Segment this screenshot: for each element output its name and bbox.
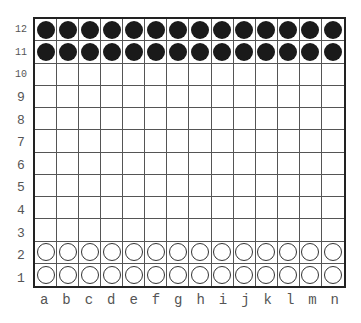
black-piece-icon[interactable]	[147, 21, 165, 39]
white-piece-icon[interactable]	[235, 266, 253, 284]
board-square-g12[interactable]	[167, 19, 189, 41]
white-piece-icon[interactable]	[169, 243, 187, 261]
board-square-g1[interactable]	[167, 264, 189, 286]
board-square-h7[interactable]	[189, 130, 211, 152]
board-square-a12[interactable]	[35, 19, 57, 41]
black-piece-icon[interactable]	[235, 21, 253, 39]
board-square-b6[interactable]	[57, 153, 79, 175]
board-square-a1[interactable]	[35, 264, 57, 286]
board-square-h4[interactable]	[189, 197, 211, 219]
board-square-a7[interactable]	[35, 130, 57, 152]
board-square-l10[interactable]	[278, 64, 300, 86]
board-square-b4[interactable]	[57, 197, 79, 219]
black-piece-icon[interactable]	[37, 21, 55, 39]
board-square-h8[interactable]	[189, 108, 211, 130]
white-piece-icon[interactable]	[103, 243, 121, 261]
board-square-b2[interactable]	[57, 242, 79, 264]
white-piece-icon[interactable]	[213, 243, 231, 261]
board-square-f4[interactable]	[145, 197, 167, 219]
board-square-e11[interactable]	[123, 41, 145, 63]
black-piece-icon[interactable]	[103, 43, 121, 61]
white-piece-icon[interactable]	[147, 266, 165, 284]
board-square-h2[interactable]	[189, 242, 211, 264]
board-square-c9[interactable]	[79, 86, 101, 108]
board-square-n11[interactable]	[322, 41, 344, 63]
board-square-j8[interactable]	[234, 108, 256, 130]
board-square-e7[interactable]	[123, 130, 145, 152]
black-piece-icon[interactable]	[37, 43, 55, 61]
white-piece-icon[interactable]	[125, 243, 143, 261]
black-piece-icon[interactable]	[59, 43, 77, 61]
board-square-c12[interactable]	[79, 19, 101, 41]
board-square-m1[interactable]	[300, 264, 322, 286]
white-piece-icon[interactable]	[81, 266, 99, 284]
board-square-c6[interactable]	[79, 153, 101, 175]
board-square-k3[interactable]	[256, 219, 278, 241]
board-square-h3[interactable]	[189, 219, 211, 241]
board-square-g11[interactable]	[167, 41, 189, 63]
white-piece-icon[interactable]	[191, 266, 209, 284]
board-square-c11[interactable]	[79, 41, 101, 63]
board-square-k5[interactable]	[256, 175, 278, 197]
board-square-g9[interactable]	[167, 86, 189, 108]
board-square-c4[interactable]	[79, 197, 101, 219]
board-square-j6[interactable]	[234, 153, 256, 175]
board-square-e10[interactable]	[123, 64, 145, 86]
black-piece-icon[interactable]	[191, 43, 209, 61]
board-square-l1[interactable]	[278, 264, 300, 286]
board-square-g6[interactable]	[167, 153, 189, 175]
board-square-j12[interactable]	[234, 19, 256, 41]
black-piece-icon[interactable]	[169, 21, 187, 39]
white-piece-icon[interactable]	[81, 243, 99, 261]
board-square-l6[interactable]	[278, 153, 300, 175]
black-piece-icon[interactable]	[279, 21, 297, 39]
board-square-n5[interactable]	[322, 175, 344, 197]
board-square-i8[interactable]	[212, 108, 234, 130]
board-square-a8[interactable]	[35, 108, 57, 130]
white-piece-icon[interactable]	[125, 266, 143, 284]
board-square-h11[interactable]	[189, 41, 211, 63]
white-piece-icon[interactable]	[324, 266, 342, 284]
board-square-b10[interactable]	[57, 64, 79, 86]
board-square-j2[interactable]	[234, 242, 256, 264]
board-square-d2[interactable]	[101, 242, 123, 264]
board-square-l4[interactable]	[278, 197, 300, 219]
black-piece-icon[interactable]	[324, 21, 342, 39]
board-square-k9[interactable]	[256, 86, 278, 108]
board-square-f12[interactable]	[145, 19, 167, 41]
board-square-l2[interactable]	[278, 242, 300, 264]
board-square-f7[interactable]	[145, 130, 167, 152]
black-piece-icon[interactable]	[191, 21, 209, 39]
board-square-f9[interactable]	[145, 86, 167, 108]
board-square-i5[interactable]	[212, 175, 234, 197]
board-square-a3[interactable]	[35, 219, 57, 241]
board-square-h9[interactable]	[189, 86, 211, 108]
board-square-i6[interactable]	[212, 153, 234, 175]
board-square-d7[interactable]	[101, 130, 123, 152]
board-square-l9[interactable]	[278, 86, 300, 108]
white-piece-icon[interactable]	[191, 243, 209, 261]
board-square-f5[interactable]	[145, 175, 167, 197]
board-square-m11[interactable]	[300, 41, 322, 63]
board-square-k1[interactable]	[256, 264, 278, 286]
board-square-n6[interactable]	[322, 153, 344, 175]
white-piece-icon[interactable]	[279, 266, 297, 284]
board-square-n8[interactable]	[322, 108, 344, 130]
board-square-d11[interactable]	[101, 41, 123, 63]
black-piece-icon[interactable]	[324, 43, 342, 61]
white-piece-icon[interactable]	[213, 266, 231, 284]
black-piece-icon[interactable]	[213, 43, 231, 61]
board-square-h6[interactable]	[189, 153, 211, 175]
board-square-g4[interactable]	[167, 197, 189, 219]
board-square-g10[interactable]	[167, 64, 189, 86]
board-square-l5[interactable]	[278, 175, 300, 197]
board-square-n4[interactable]	[322, 197, 344, 219]
board-square-i12[interactable]	[212, 19, 234, 41]
black-piece-icon[interactable]	[103, 21, 121, 39]
board-square-d4[interactable]	[101, 197, 123, 219]
black-piece-icon[interactable]	[257, 21, 275, 39]
board-square-a10[interactable]	[35, 64, 57, 86]
board-square-d12[interactable]	[101, 19, 123, 41]
white-piece-icon[interactable]	[37, 243, 55, 261]
board-square-i2[interactable]	[212, 242, 234, 264]
